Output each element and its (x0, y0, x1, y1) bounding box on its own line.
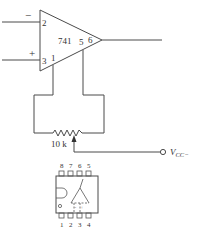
package-pin-2 (68, 213, 73, 218)
internal-minus: - (75, 205, 77, 210)
package-label-5: 5 (87, 162, 91, 170)
offset-null-wire-left (34, 65, 53, 133)
package-label-7: 7 (69, 162, 73, 170)
package-notch (56, 188, 67, 198)
internal-output-lead (80, 179, 83, 188)
supply-label: VCC− (170, 147, 189, 158)
pin-label-3: 3 (42, 56, 47, 66)
package-pin-3 (77, 213, 82, 218)
pin1-indicator-dot (58, 204, 61, 207)
potentiometer-resistor (53, 130, 82, 136)
potentiometer-value-label: 10 k (51, 139, 67, 149)
supply-terminal (160, 149, 165, 154)
package-label-2: 2 (69, 221, 73, 229)
package-label-3: 3 (78, 221, 82, 229)
package-pin-8 (59, 171, 64, 176)
pin-label-5: 5 (79, 37, 84, 47)
pin-label-2: 2 (42, 18, 47, 28)
package-pin-7 (68, 171, 73, 176)
package-pin-1 (59, 213, 64, 218)
package-label-6: 6 (78, 162, 82, 170)
package-pin-4 (86, 213, 91, 218)
pin-label-1: 1 (51, 53, 56, 63)
inverting-symbol: − (25, 9, 31, 21)
internal-opamp-triangle (71, 188, 89, 203)
internal-plus: + (81, 205, 84, 210)
offset-null-wire-right (82, 50, 104, 133)
noninverting-symbol: + (29, 47, 35, 59)
package-label-4: 4 (87, 221, 91, 229)
offset-null-diagram: − + 2 3 1 5 6 741 10 k VCC− (0, 0, 203, 242)
opamp-part-label: 741 (58, 36, 72, 46)
package-pin-5 (86, 171, 91, 176)
dip-package: - + (56, 171, 98, 218)
supply-label-sub: CC− (176, 151, 189, 158)
pin-label-6: 6 (88, 35, 93, 45)
package-pin-6 (77, 171, 82, 176)
package-label-1: 1 (60, 221, 64, 229)
package-body (56, 176, 98, 213)
package-label-8: 8 (60, 162, 64, 170)
